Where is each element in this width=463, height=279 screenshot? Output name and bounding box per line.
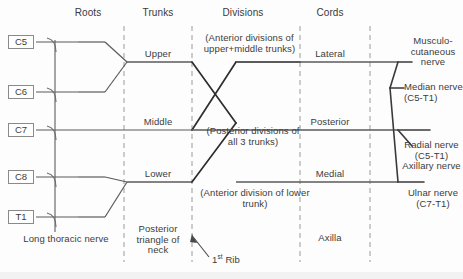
column-header-divisions: Divisions xyxy=(223,8,264,19)
terminal-nerve-median: Median nerve (C5-T1) xyxy=(404,82,463,103)
long-thoracic-nerve-path xyxy=(47,38,56,232)
trunk-label-middle: Middle xyxy=(144,117,173,128)
root-box-c8[interactable]: C8 xyxy=(8,170,34,184)
trunk-label-upper: Upper xyxy=(145,49,171,60)
first-rib-arrow-head xyxy=(190,234,197,243)
terminal-nerve-musculocutaneous: Musculo-cutaneous nerve xyxy=(404,36,462,68)
column-header-roots: Roots xyxy=(75,8,102,19)
division-note-anterior-lower: (Anterior division of lower trunk) xyxy=(200,188,310,209)
root-box-t1[interactable]: T1 xyxy=(8,210,34,224)
root-box-c5[interactable]: C5 xyxy=(8,35,34,49)
brachial-plexus-diagram: Roots Trunks Divisions Cords C5 C6 C7 C8… xyxy=(0,0,463,279)
terminal-nerve-ulnar: Ulnar nerve (C7-T1) xyxy=(404,188,462,209)
root-stubs xyxy=(36,42,192,217)
bottom-edge-band xyxy=(0,272,463,279)
division-note-posterior-all-three: (Posterior divisions of all 3 trunks) xyxy=(205,126,301,147)
trunk-label-lower: Lower xyxy=(145,169,171,180)
division-crossings xyxy=(192,62,300,182)
first-rib-word: Rib xyxy=(223,254,240,265)
cord-label-posterior: Posterior xyxy=(311,117,350,128)
annotation-long-thoracic-nerve: Long thoracic nerve xyxy=(20,234,112,245)
medial-root-of-median xyxy=(390,88,398,182)
cord-lines xyxy=(192,62,398,182)
annotation-first-rib: 1st Rib xyxy=(212,252,240,266)
c6-to-upper xyxy=(105,62,127,92)
root-box-c7[interactable]: C7 xyxy=(8,123,34,137)
division-note-anterior-upper-middle: (Anterior divisions of upper+middle trun… xyxy=(192,33,307,54)
terminal-nerve-radial-axillary: Radial nerve (C5-T1) Axillary nerve xyxy=(400,140,463,172)
cord-label-lateral: Lateral xyxy=(315,49,345,60)
first-rib-arrow-shaft xyxy=(194,238,209,257)
cord-label-medial: Medial xyxy=(316,169,345,180)
root-box-c6[interactable]: C6 xyxy=(8,85,34,99)
column-header-cords: Cords xyxy=(316,8,343,19)
column-header-trunks: Trunks xyxy=(143,8,174,19)
annotation-axilla: Axilla xyxy=(318,233,341,244)
lateral-root-of-median xyxy=(390,62,398,88)
first-rib-arrow xyxy=(190,234,209,257)
annotation-posterior-triangle-of-neck: Posterior triangle of neck xyxy=(126,224,190,256)
